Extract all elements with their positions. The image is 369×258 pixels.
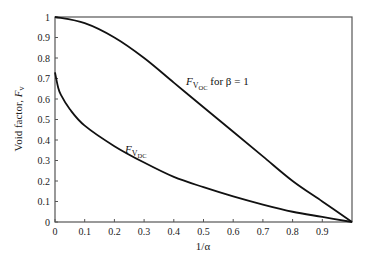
y-tick-label: 0.9 <box>38 32 51 43</box>
annotation-fvoc-subscript: OC <box>199 84 208 91</box>
x-tick-label: 0.8 <box>286 226 299 237</box>
series-fvdc-line <box>55 72 352 222</box>
void-factor-chart: 00.10.20.30.40.50.60.70.80.9 00.10.20.30… <box>0 0 369 258</box>
y-tick-label: 1 <box>45 12 50 23</box>
x-tick-label: 0 <box>53 226 58 237</box>
y-axis-label-text: Void factor, <box>12 97 24 151</box>
y-tick-label: 0.4 <box>38 135 51 146</box>
annotation-fvdc-subscript: DC <box>138 152 147 159</box>
series-fvoc-line <box>55 17 352 222</box>
x-tick-label: 0.4 <box>168 226 181 237</box>
x-tick-label: 0.9 <box>316 226 329 237</box>
y-tick-label: 0.3 <box>38 155 51 166</box>
x-tick-label: 0.3 <box>138 226 151 237</box>
x-tick-label: 0.5 <box>197 226 210 237</box>
y-tick-label: 0.2 <box>38 176 51 187</box>
y-tick-label: 0.1 <box>38 196 51 207</box>
series-lines <box>55 17 352 222</box>
y-tick-label: 0.7 <box>38 73 51 84</box>
annotation-fvoc-text: for β = 1 <box>208 75 249 87</box>
annotation-fvdc: FVDC <box>124 143 147 159</box>
x-tick-label: 0.2 <box>108 226 121 237</box>
x-tick-label: 0.7 <box>257 226 270 237</box>
y-tick-label: 0 <box>45 217 50 228</box>
y-tick-label: 0.8 <box>38 53 51 64</box>
y-tick-label: 0.6 <box>38 94 51 105</box>
annotation-fvoc: FVOC for β = 1 <box>185 75 249 91</box>
y-axis-label: Void factor, Fv <box>12 87 26 152</box>
y-axis-label-subscript: v <box>17 87 26 91</box>
x-tick-label: 0.1 <box>78 226 91 237</box>
x-tick-label: 0.6 <box>227 226 240 237</box>
y-tick-label: 0.5 <box>38 114 51 125</box>
x-axis-label: 1/α <box>196 240 211 252</box>
